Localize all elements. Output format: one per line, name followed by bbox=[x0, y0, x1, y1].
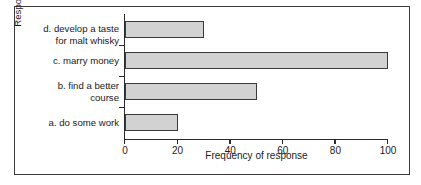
x-axis-tick bbox=[177, 139, 178, 144]
x-axis-tick bbox=[124, 139, 125, 144]
bar-c-marry-money bbox=[125, 52, 388, 69]
bar-chart-figure: Response 0 20 40 60 80 100 d. develop a … bbox=[0, 0, 421, 185]
x-axis-title: Frequency of response bbox=[125, 150, 388, 161]
x-axis-tick bbox=[282, 139, 283, 144]
y-axis-tick bbox=[119, 107, 125, 108]
bar-d-develop-a-taste-for-malt-whisky bbox=[125, 21, 204, 38]
x-axis-tick bbox=[334, 139, 335, 144]
y-category-label-b: b. find a better course bbox=[9, 80, 119, 103]
y-category-label-d: d. develop a taste for malt whisky bbox=[9, 23, 119, 46]
bar-b-find-a-better-course bbox=[125, 83, 257, 100]
plot-area: 0 20 40 60 80 100 d. develop a taste for… bbox=[125, 14, 388, 139]
y-axis-tick bbox=[119, 76, 125, 77]
x-axis-tick bbox=[387, 139, 388, 144]
bar-a-do-some-work bbox=[125, 114, 178, 131]
x-axis-tick bbox=[229, 139, 230, 144]
y-axis-tick bbox=[119, 45, 125, 46]
y-category-label-c: c. marry money bbox=[9, 55, 119, 67]
y-category-label-a: a. do some work bbox=[9, 117, 119, 129]
x-axis-line bbox=[124, 139, 388, 140]
